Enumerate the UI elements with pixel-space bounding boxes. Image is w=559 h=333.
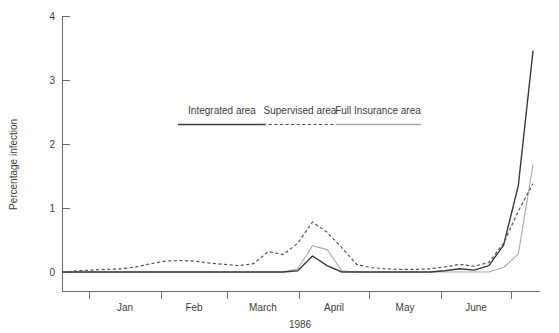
legend-label-full-insurance-area: Full Insurance area xyxy=(335,105,421,116)
legend-label-supervised-area: Supervised area xyxy=(264,105,337,116)
y-tick-label-4: 4 xyxy=(49,11,55,22)
y-tick-label-0: 0 xyxy=(49,267,55,278)
x-tick-label-march: March xyxy=(249,302,277,313)
x-tick-label-jan: Jan xyxy=(117,302,133,313)
y-tick-label-1: 1 xyxy=(49,203,55,214)
y-tick-label-2: 2 xyxy=(49,139,55,150)
y-tick-label-3: 3 xyxy=(49,75,55,86)
x-tick-label-april: April xyxy=(324,302,344,313)
y-axis-ticks xyxy=(63,17,70,273)
series-line-full-insurance-area xyxy=(63,164,534,272)
chart-container: 4 3 2 1 0 Percentage infection Jan Feb M… xyxy=(0,0,559,333)
legend-label-integrated-area: Integrated area xyxy=(188,105,256,116)
series-line-integrated-area xyxy=(63,51,534,272)
infection-line-chart: 4 3 2 1 0 Percentage infection Jan Feb M… xyxy=(0,0,559,333)
chart-legend: Integrated area Supervised area Full Ins… xyxy=(178,105,421,125)
x-tick-label-feb: Feb xyxy=(185,302,203,313)
x-axis-title: 1986 xyxy=(289,319,312,330)
y-axis-title: Percentage infection xyxy=(8,119,19,210)
x-tick-label-june: June xyxy=(465,302,487,313)
x-tick-label-may: May xyxy=(396,302,415,313)
series-line-supervised-area xyxy=(63,184,534,272)
x-axis-ticks xyxy=(90,292,512,299)
